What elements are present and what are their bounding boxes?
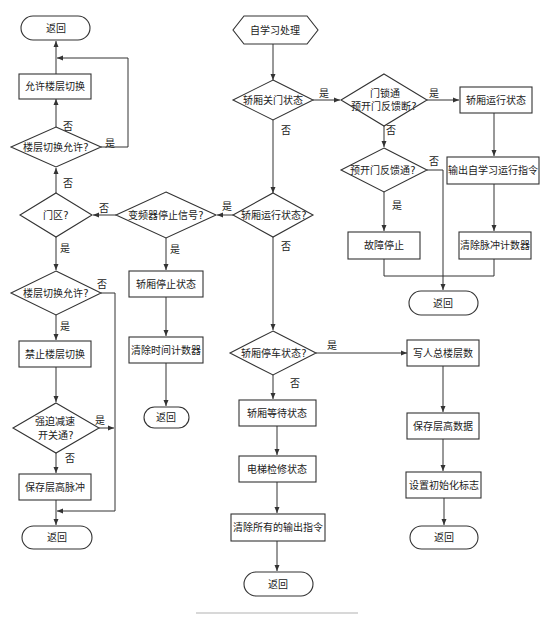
label-prefb-no: 否 — [429, 156, 439, 167]
label-door-closed-yes: 是 — [319, 88, 329, 99]
decision-door-closed: 轿厢关门状态 — [233, 80, 313, 120]
label-decel-no: 否 — [65, 453, 75, 464]
process-maintenance: 电梯检修状态 — [239, 456, 316, 482]
label-door-closed-no: 否 — [281, 125, 291, 136]
label-floor-switch-top-yes: 是 — [105, 138, 115, 149]
process-clear-pulse: 清除脉冲计数器 — [459, 232, 531, 259]
label-car-parked-no: 否 — [290, 378, 300, 389]
process-fault-stop: 故障停止 — [348, 232, 420, 259]
start-label: 自学习处理 — [250, 24, 300, 36]
edge-prefb-no — [427, 170, 443, 276]
process-label: 清除脉冲计数器 — [460, 239, 530, 251]
process-save-floor-pulse: 保存层高脉冲 — [19, 474, 91, 500]
terminal-return-bottom-right: 返回 — [410, 526, 478, 549]
process-label: 允许楼层切换 — [25, 80, 85, 92]
label-car-running-no: 否 — [281, 241, 291, 252]
decision-door-zone: 门区? — [20, 193, 92, 237]
terminal-return-top-right: 返回 — [409, 291, 478, 315]
process-label: 设置初始化标志 — [409, 479, 479, 491]
decision-label: 变频器停止信号? — [128, 209, 203, 221]
decision-prefb-on: 预开门反馈通? — [341, 148, 427, 192]
process-label: 禁止楼层切换 — [25, 348, 85, 360]
decision-car-running: 轿厢运行状态? — [233, 193, 313, 237]
terminal-return-bottom-center: 返回 — [244, 572, 313, 596]
process-label: 保存层高脉冲 — [25, 481, 85, 493]
process-label: 清除时间计数器 — [131, 344, 201, 356]
decision-label-line1: 门锁通 — [370, 87, 400, 99]
terminal-label: 返回 — [434, 532, 454, 543]
decision-label: 轿厢停车状态? — [241, 347, 306, 359]
process-save-floor-height: 保存层高数据 — [407, 413, 479, 439]
decision-label: 轿厢运行状态? — [241, 209, 306, 221]
decision-label-line2: 预开门反馈断? — [351, 100, 416, 112]
label-inverter-no: 否 — [99, 203, 109, 214]
label-floor-switch-bottom-yes: 是 — [60, 321, 70, 332]
process-set-init-flag: 设置初始化标志 — [406, 472, 481, 498]
process-car-running: 轿厢运行状态 — [460, 87, 532, 113]
label-car-running-yes: 是 — [222, 201, 232, 212]
terminal-label: 返回 — [268, 579, 288, 590]
terminal-label: 返回 — [47, 532, 67, 543]
decision-floor-switch-bottom: 楼层切换允许? — [11, 271, 101, 315]
label-decel-yes: 是 — [95, 415, 105, 426]
process-car-waiting: 轿厢等待状态 — [239, 400, 316, 426]
label-floor-switch-top-no: 否 — [63, 121, 73, 132]
process-write-total-floors: 写人总楼层数 — [407, 340, 479, 366]
decision-inverter-stop: 变频器停止信号? — [116, 192, 216, 238]
decision-label-line1: 强迫减速 — [35, 415, 75, 427]
process-clear-timer: 清除时间计数器 — [129, 337, 203, 363]
decision-floor-switch-top: 楼层切换允许? — [11, 127, 101, 167]
flowchart-canvas: 是 否 是 否 否 是 是 否 否 是 否 否 是 是 否 是 是 否 是 否 … — [0, 0, 555, 617]
process-label: 输出自学习运行指令 — [448, 164, 538, 176]
decision-label-line2: 开关通? — [38, 429, 73, 441]
label-door-zone-no: 否 — [63, 178, 73, 189]
process-output-learn-cmd: 输出自学习运行指令 — [447, 157, 539, 184]
process-allow-floor-switch: 允许楼层切换 — [19, 74, 91, 99]
decision-label: 楼层切换允许? — [23, 141, 88, 153]
terminal-label: 返回 — [433, 298, 453, 309]
start-node: 自学习处理 — [233, 16, 318, 44]
terminal-return-top-left: 返回 — [21, 16, 90, 40]
label-lock-yes: 是 — [429, 88, 439, 99]
process-label: 写人总楼层数 — [413, 347, 473, 359]
process-clear-all-outputs: 清除所有的输出指令 — [231, 514, 325, 541]
process-car-stop-state: 轿厢停止状态 — [129, 271, 203, 297]
label-inverter-yes: 是 — [170, 244, 180, 255]
decision-lock-prefb-off: 门锁通 预开门反馈断? — [341, 74, 427, 126]
process-forbid-floor-switch: 禁止楼层切换 — [19, 341, 91, 367]
decision-label: 楼层切换允许? — [23, 287, 88, 299]
process-label: 轿厢停止状态 — [136, 278, 196, 290]
label-prefb-yes: 是 — [392, 200, 402, 211]
label-lock-no: 否 — [386, 125, 396, 136]
terminal-label: 返回 — [156, 412, 176, 423]
decision-car-parked: 轿厢停车状态? — [230, 331, 316, 375]
terminal-return-mid: 返回 — [144, 407, 189, 428]
label-door-zone-yes: 是 — [60, 243, 70, 254]
label-floor-switch-bottom-no: 否 — [97, 279, 107, 290]
process-label: 故障停止 — [364, 239, 404, 251]
process-label: 清除所有的输出指令 — [233, 521, 323, 533]
decision-forced-decel: 强迫减速 开关通? — [13, 403, 99, 453]
label-car-parked-yes: 是 — [327, 340, 337, 351]
bottom-divider — [196, 612, 358, 614]
decision-label: 轿厢关门状态 — [243, 94, 303, 106]
decision-label: 门区? — [43, 209, 68, 221]
terminal-return-bottom-left: 返回 — [22, 526, 92, 549]
process-label: 电梯检修状态 — [247, 463, 307, 475]
diamond-shape — [13, 403, 99, 453]
process-label: 轿厢等待状态 — [247, 407, 307, 419]
process-label: 轿厢运行状态 — [466, 94, 526, 106]
process-label: 保存层高数据 — [413, 420, 473, 432]
terminal-label: 返回 — [46, 23, 66, 34]
decision-label: 预开门反馈通? — [350, 164, 415, 176]
